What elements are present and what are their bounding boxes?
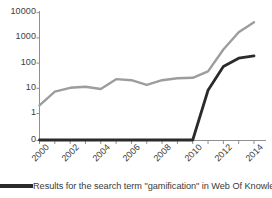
plot-svg xyxy=(0,0,272,150)
y-tick-label-10: 10 xyxy=(2,83,36,92)
series-line-grey xyxy=(40,22,255,105)
legend-label-gamification: Results for the search term "gamificatio… xyxy=(33,181,272,192)
y-tick-label-1: 1 xyxy=(2,108,36,117)
x-tick-label-2014: 2014 xyxy=(240,142,265,167)
y-tick-label-100: 100 xyxy=(2,58,36,67)
x-tick-label-2000: 2000 xyxy=(25,142,50,167)
x-tick-label-2008: 2008 xyxy=(148,142,173,167)
chart-figure: 1000010001001010 20002002200420062008201… xyxy=(0,0,272,198)
y-tick-label-10000: 10000 xyxy=(2,7,36,16)
x-tick-label-2006: 2006 xyxy=(117,142,142,167)
legend-line-swatch xyxy=(0,184,33,188)
x-tick-label-2002: 2002 xyxy=(56,142,81,167)
y-tick-label-1000: 1000 xyxy=(2,32,36,41)
x-axis-tick-labels: 20002002200420062008201020122014 xyxy=(0,142,272,174)
x-tick-label-2004: 2004 xyxy=(86,142,111,167)
chart-legend: Results for the search term "gamificatio… xyxy=(0,178,272,194)
series-line-gamification xyxy=(40,56,255,140)
x-tick-label-2010: 2010 xyxy=(178,142,203,167)
y-axis-tick-labels: 1000010001001010 xyxy=(0,0,36,150)
x-tick-label-2012: 2012 xyxy=(209,142,234,167)
plot-area: 1000010001001010 xyxy=(0,0,272,150)
